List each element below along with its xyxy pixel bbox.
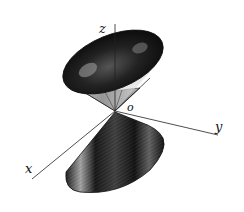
z-axis-label: z: [98, 21, 106, 36]
double-cone-diagram: z o y x: [0, 0, 244, 212]
x-axis-label: x: [25, 161, 33, 176]
y-axis-label: y: [214, 119, 223, 134]
diagram-canvas: z o y x: [0, 0, 244, 212]
origin-label: o: [127, 101, 134, 114]
